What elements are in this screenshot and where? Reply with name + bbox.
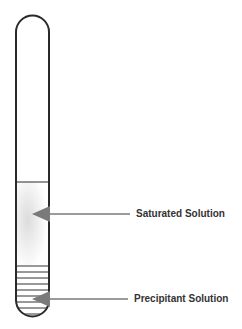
saturated-solution-label: Saturated Solution: [136, 208, 225, 220]
test-tube-outline: [16, 16, 49, 317]
saturated-arrow-icon: [32, 206, 130, 222]
saturated-solution-region: [16, 182, 49, 266]
precipitant-solution-region: [16, 266, 49, 314]
test-tube-diagram: [0, 0, 242, 329]
precipitant-solution-label: Precipitant Solution: [134, 293, 228, 305]
precipitant-arrow-icon: [32, 291, 128, 307]
